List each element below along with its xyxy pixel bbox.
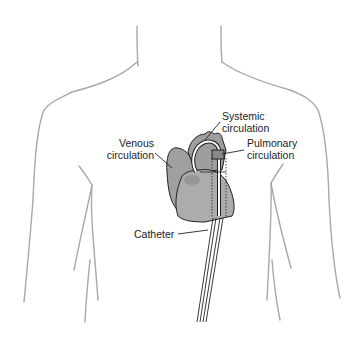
heart <box>167 132 234 222</box>
torso-diagram <box>0 0 362 339</box>
catheter-leader <box>178 230 208 234</box>
label-venous-circulation: Venous circulation <box>104 137 154 161</box>
label-pulmonary-circulation: Pulmonary circulation <box>247 137 297 161</box>
catheter-tube <box>197 218 223 322</box>
label-catheter: Catheter <box>134 228 174 240</box>
label-systemic-circulation: Systemic circulation <box>222 110 269 134</box>
